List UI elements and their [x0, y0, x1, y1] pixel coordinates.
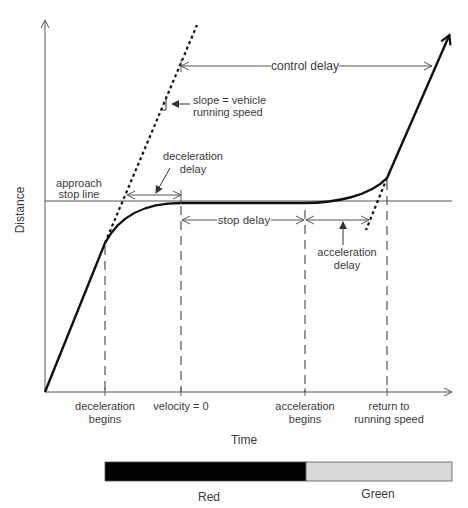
red-phase-label: Red	[198, 490, 220, 504]
marker-label-deceleration-begins-1: deceleration	[75, 400, 135, 412]
deceleration-delay-pointer	[156, 168, 170, 193]
time-marker-lines	[105, 181, 387, 392]
green-phase	[306, 462, 452, 481]
deceleration-delay-label-line1: deceleration	[163, 150, 223, 162]
acceleration-delay-label-line2: delay	[334, 259, 361, 271]
red-phase	[105, 462, 306, 481]
y-axis-label: Distance	[13, 186, 27, 233]
deceleration-delay-label-line2: delay	[180, 163, 207, 175]
slope-label-line2: running speed	[193, 106, 263, 118]
green-phase-label: Green	[361, 487, 394, 501]
slope-label-line1: slope = vehicle	[193, 94, 266, 106]
control-delay-label: control delay	[271, 59, 339, 73]
approach-stop-line-label-line2: stop line	[59, 188, 100, 200]
axes	[45, 20, 452, 392]
marker-label-deceleration-begins-2: begins	[89, 413, 122, 425]
acceleration-delay-label-line1: acceleration	[317, 246, 376, 258]
signal-phase-bar: Red Green	[105, 462, 452, 504]
marker-label-return-running-speed-2: running speed	[354, 413, 424, 425]
marker-label-velocity-zero: velocity = 0	[153, 400, 208, 412]
x-axis-label: Time	[231, 433, 258, 447]
marker-label-acceleration-begins-2: begins	[289, 413, 322, 425]
time-marker-labels: deceleration begins velocity = 0 acceler…	[75, 400, 424, 425]
stop-delay-label: stop delay	[218, 214, 271, 226]
marker-label-return-running-speed-1: return to	[369, 400, 410, 412]
delay-diagram: control delay slope = vehicle running sp…	[0, 0, 468, 508]
running-speed-slope-line	[105, 25, 197, 243]
marker-label-acceleration-begins-1: acceleration	[275, 400, 334, 412]
